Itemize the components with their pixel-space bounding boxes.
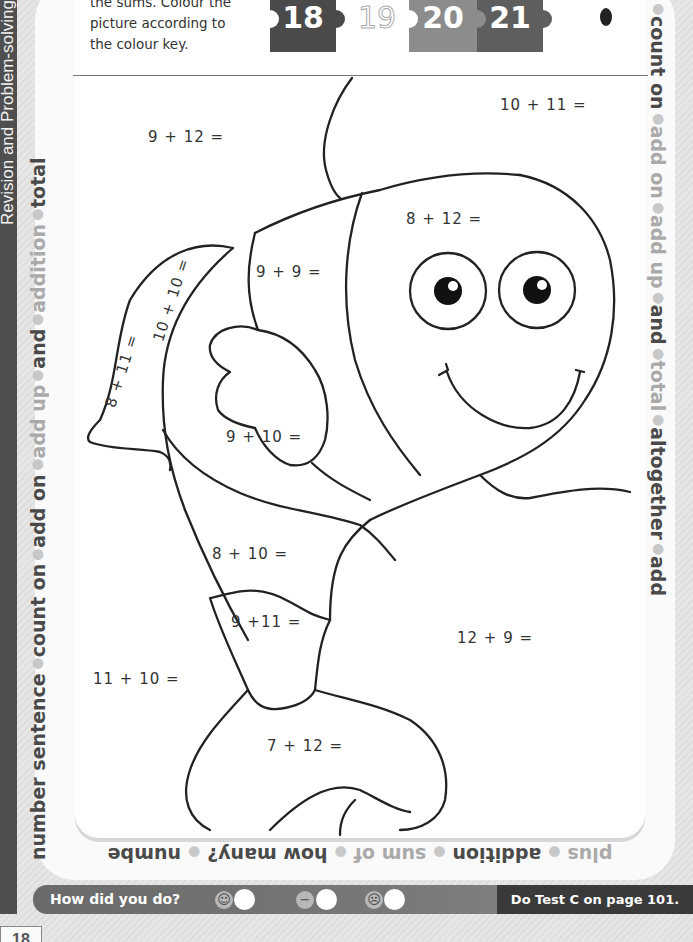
key-value: 21 bbox=[489, 0, 531, 35]
sum-label: 9 + 9 = bbox=[256, 263, 322, 281]
sum-label: 9 + 12 = bbox=[148, 128, 224, 146]
smile-end-right bbox=[576, 370, 584, 372]
key-value: 20 bbox=[422, 0, 464, 35]
puzzle-notch bbox=[400, 10, 418, 28]
sum-label: 9 +11 = bbox=[231, 613, 301, 631]
lower-fin-outline bbox=[315, 520, 446, 830]
page-number: 18 bbox=[0, 926, 42, 942]
happy-tick-circle[interactable] bbox=[234, 889, 255, 910]
tail-join-line bbox=[248, 620, 330, 709]
sad-face-icon: ☹ bbox=[365, 891, 383, 909]
neutral-face-icon: − bbox=[296, 891, 314, 909]
self-assessment-question: How did you do? bbox=[50, 885, 180, 914]
puzzle-tab bbox=[327, 10, 345, 28]
next-test-note: Do Test C on page 101. bbox=[497, 885, 693, 914]
smile bbox=[447, 372, 580, 428]
key-value: 19 bbox=[358, 0, 396, 35]
puzzle-notch bbox=[261, 10, 279, 28]
tail-fin-outline bbox=[186, 690, 410, 835]
sum-label: 8 + 10 = bbox=[212, 545, 288, 563]
side-fin-outline bbox=[88, 246, 233, 470]
lower-fin-top bbox=[480, 475, 630, 498]
neutral-tick-circle[interactable] bbox=[316, 889, 337, 910]
sad-tick-circle[interactable] bbox=[384, 889, 405, 910]
puzzle-tab bbox=[534, 10, 552, 28]
sum-label: 9 + 10 = bbox=[226, 428, 302, 446]
puzzle-notch bbox=[468, 10, 486, 28]
right-pupil-highlight bbox=[537, 280, 547, 290]
sum-label: 10 + 11 = bbox=[500, 96, 587, 114]
stripe-line-3 bbox=[312, 463, 370, 500]
top-fin-outline bbox=[324, 78, 352, 198]
sum-label: 7 + 12 = bbox=[267, 737, 343, 755]
happy-face-icon: ☺ bbox=[215, 891, 233, 909]
sum-label: 11 + 10 = bbox=[93, 670, 180, 688]
body-lower-left bbox=[210, 598, 248, 690]
sum-label: 8 + 12 = bbox=[406, 210, 482, 228]
right-pupil bbox=[523, 276, 551, 304]
left-pupil bbox=[434, 277, 462, 305]
sum-label: 12 + 9 = bbox=[457, 629, 533, 647]
left-pupil-highlight bbox=[448, 281, 458, 291]
key-value: 18 bbox=[282, 0, 324, 35]
head-stripe-line bbox=[346, 193, 420, 475]
stripe-line-1 bbox=[249, 233, 258, 330]
